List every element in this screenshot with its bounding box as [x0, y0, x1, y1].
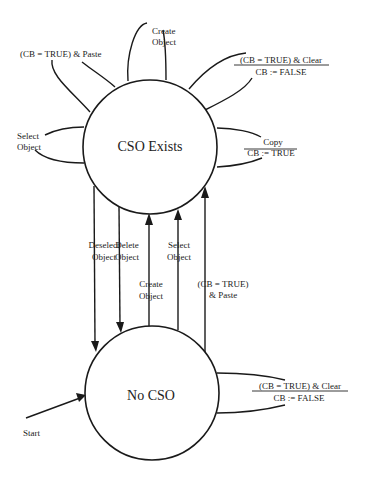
label-paste-1: (CB = TRUE)	[198, 279, 249, 289]
loop-select-object	[35, 127, 84, 163]
label-select-1: Select	[168, 240, 190, 250]
label-loop-clear-condition: (CB = TRUE) & Clear	[240, 55, 322, 65]
label-loop-create-2: Object	[152, 37, 176, 47]
label-start: Start	[23, 428, 40, 438]
state-label-no-cso: No CSO	[127, 388, 175, 403]
transition-deselect-object	[91, 186, 99, 352]
label-create-2: Object	[139, 291, 163, 301]
label-loop-copy-condition: Copy	[263, 137, 283, 147]
label-delete-1: Delete	[115, 240, 138, 250]
label-no-cso-clear-action: CB := FALSE	[274, 393, 325, 403]
state-label-cso-exists: CSO Exists	[118, 139, 183, 154]
transition-paste	[201, 186, 209, 352]
transition-delete-object	[116, 206, 124, 333]
label-paste-2: & Paste	[209, 290, 237, 300]
label-create-1: Create	[139, 279, 162, 289]
label-loop-clear-action: CB := FALSE	[256, 67, 307, 77]
transition-select-object	[174, 209, 182, 330]
label-loop-create-1: Create	[152, 26, 175, 36]
label-loop-select-2: Object	[17, 142, 41, 152]
start-arrow	[26, 393, 86, 418]
transition-create-object	[145, 213, 153, 326]
label-loop-copy-action: CB := TRUE	[247, 148, 295, 158]
label-loop-select-1: Select	[17, 131, 39, 141]
label-select-2: Object	[167, 252, 191, 262]
label-no-cso-clear-condition: (CB = TRUE) & Clear	[259, 381, 341, 391]
label-loop-paste: (CB = TRUE) & Paste	[20, 49, 101, 59]
label-deselect-2: Object	[92, 252, 116, 262]
state-diagram: CSO Exists No CSO (CB = TRUE) & Paste Cr…	[0, 0, 367, 477]
label-delete-2: Object	[115, 252, 139, 262]
